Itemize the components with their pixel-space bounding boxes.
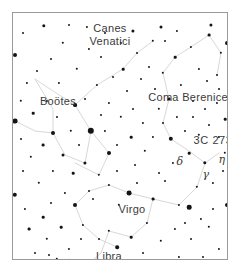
constellation-line-bootes-figure: [35, 79, 91, 163]
star: [13, 53, 17, 57]
star: [42, 144, 45, 147]
star: [164, 180, 166, 182]
star: [142, 252, 144, 254]
star: [50, 202, 52, 204]
star: [50, 58, 52, 60]
label-coma-berenices: Coma Berenices: [148, 91, 228, 103]
star: [136, 182, 138, 184]
star: [68, 24, 70, 26]
star: [162, 122, 164, 124]
constellation-line-coma-berenices-line: [163, 35, 209, 73]
star: [98, 238, 100, 240]
label-canes-venatici-line1: Canes: [90, 22, 131, 35]
star: [204, 108, 206, 110]
star: [36, 70, 38, 72]
label-gamma-virginis: γ: [203, 168, 210, 181]
star: [13, 119, 18, 124]
star: [202, 256, 204, 258]
star: [224, 118, 227, 121]
star: [84, 98, 86, 100]
star: [225, 203, 228, 207]
star: [188, 152, 191, 155]
star: [127, 191, 132, 196]
star: [160, 26, 163, 29]
star: [148, 66, 150, 68]
constellation-line-upper-right-line: [209, 35, 221, 75]
star: [184, 222, 186, 224]
label-canes-venatici-line2: Venatici: [90, 35, 131, 48]
star: [56, 116, 58, 118]
star: [174, 56, 177, 59]
star: [22, 170, 24, 172]
star: [216, 74, 218, 76]
star: [136, 52, 138, 54]
star: [130, 236, 133, 239]
label-libra: Libra: [96, 250, 122, 260]
constellation-line-virgo-spica-chain: [129, 163, 205, 205]
star: [190, 238, 192, 240]
star: [92, 198, 94, 200]
label-canes-venatici: Canes Venatici: [90, 22, 131, 48]
star: [80, 238, 82, 240]
star: [187, 205, 192, 210]
star: [28, 228, 31, 231]
star: [116, 170, 118, 172]
star: [20, 138, 22, 140]
star: [116, 144, 118, 146]
star: [134, 164, 136, 166]
star: [51, 131, 55, 135]
star: [34, 252, 36, 254]
star: [208, 124, 210, 126]
star: [140, 78, 142, 80]
star: [212, 208, 214, 210]
label-eta-virginis: η: [219, 153, 226, 166]
star: [184, 130, 186, 132]
star: [107, 151, 111, 155]
star: [22, 32, 24, 34]
star: [42, 216, 45, 219]
star: [130, 136, 133, 139]
constellation-line-coma-to-virgo: [163, 73, 171, 139]
star: [62, 154, 65, 157]
star: [88, 190, 90, 192]
star: [218, 88, 220, 90]
label-bootes: Boötes: [40, 95, 76, 107]
star: [152, 198, 155, 201]
star: [132, 108, 134, 110]
constellation-line-bootes-upper-arm: [75, 69, 123, 105]
star: [112, 76, 114, 78]
constellation-line-virgo-tail: [83, 225, 117, 247]
star: [60, 226, 63, 229]
sky-map-frame: Canes Venatici Boötes Coma Berenices 3C …: [12, 12, 228, 260]
star: [192, 116, 194, 118]
star: [154, 88, 156, 90]
star: [100, 56, 102, 58]
star: [225, 41, 228, 45]
star: [122, 68, 125, 71]
label-delta-virginis: δ: [177, 155, 184, 168]
star: [158, 172, 160, 174]
star: [48, 254, 50, 256]
constellation-line-left-edge-line: [15, 121, 53, 133]
constellation-line-bootes-lower-kite: [75, 131, 109, 175]
star: [72, 172, 75, 175]
star: [100, 114, 102, 116]
star: [73, 203, 77, 207]
star: [222, 170, 224, 172]
star-chart: Canes Venatici Boötes Coma Berenices 3C …: [0, 0, 241, 274]
label-quasar-3c273: 3C 273: [193, 134, 228, 146]
star: [126, 90, 128, 92]
star: [115, 245, 119, 249]
star: [164, 40, 166, 42]
star: [208, 34, 211, 37]
star: [206, 80, 208, 82]
star: [32, 112, 35, 115]
label-virgo: Virgo: [119, 203, 146, 215]
star: [78, 144, 80, 146]
